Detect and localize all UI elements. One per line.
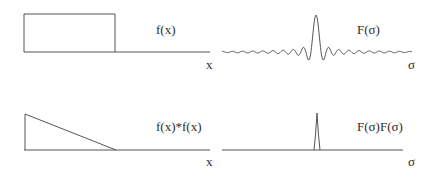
sinc-function-curve <box>222 15 412 60</box>
axis-label-sigma-top: σ <box>408 58 415 71</box>
axis-label-x-top: x <box>206 58 213 71</box>
label-F-sigma: F(σ) <box>357 23 380 36</box>
narrow-peak-curve <box>314 113 320 150</box>
panel-top-right-plot <box>222 15 412 60</box>
label-convolution: f(x)*f(x) <box>156 120 201 133</box>
label-f-x: f(x) <box>156 23 176 36</box>
panel-top-left-plot <box>24 14 210 52</box>
label-product: F(σ)F(σ) <box>357 120 403 133</box>
axis-label-x-bottom: x <box>206 155 213 168</box>
axis-label-sigma-bottom: σ <box>408 155 415 168</box>
autocorrelation-triangle-curve <box>25 114 116 150</box>
rectangle-function-curve <box>24 14 115 52</box>
